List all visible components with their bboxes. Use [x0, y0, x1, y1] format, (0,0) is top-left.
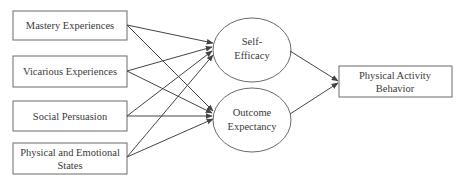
mediator-label-self-efficacy-line1: Self- — [242, 36, 263, 47]
edges-sources-to-mediators — [127, 25, 213, 157]
mediator-label-outcome-line1: Outcome — [233, 107, 272, 118]
source-box-physical: Physical and Emotional States — [13, 143, 127, 174]
source-label-physical-line2: States — [57, 160, 82, 171]
edge-self-efficacy-to-behavior — [290, 51, 338, 81]
mediator-self-efficacy: Self- Efficacy — [213, 18, 291, 82]
source-box-vicarious: Vicarious Experiences — [13, 56, 127, 87]
outcome-label-line2: Behavior — [376, 83, 415, 94]
mediator-label-self-efficacy-line2: Efficacy — [234, 50, 270, 61]
source-label-mastery: Mastery Experiences — [26, 20, 114, 31]
outcome-box-behavior: Physical Activity Behavior — [339, 66, 452, 97]
source-label-vicarious: Vicarious Experiences — [23, 66, 117, 77]
source-label-physical-line1: Physical and Emotional — [20, 147, 120, 158]
edges-mediators-to-outcome — [290, 51, 338, 114]
mediator-outcome-expectancy: Outcome Expectancy — [213, 88, 291, 152]
source-box-mastery: Mastery Experiences — [13, 11, 127, 40]
mediator-label-outcome-line2: Expectancy — [228, 121, 278, 132]
source-label-social: Social Persuasion — [33, 111, 108, 122]
edge-physical-to-outcome — [127, 119, 213, 157]
edge-mastery-to-self-efficacy — [127, 25, 213, 43]
edge-mastery-to-outcome — [127, 25, 213, 111]
edge-outcome-to-behavior — [290, 83, 338, 114]
path-diagram: Mastery Experiences Vicarious Experience… — [0, 0, 463, 186]
outcome-label-line1: Physical Activity — [359, 70, 432, 81]
source-box-social: Social Persuasion — [13, 101, 127, 131]
